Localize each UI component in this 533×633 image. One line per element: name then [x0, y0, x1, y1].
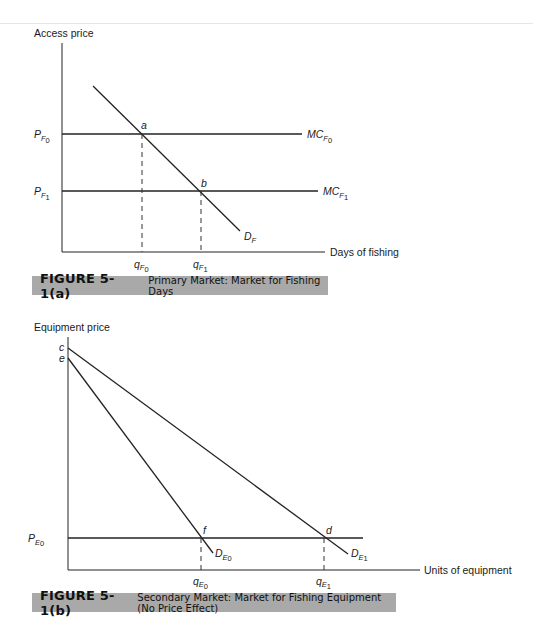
figure-b-title: Secondary Market: Market for Fishing Equ…: [137, 592, 396, 614]
figure-a-caption: FIGURE 5-1(a) Primary Market: Market for…: [32, 276, 328, 295]
figure-a-title: Primary Market: Market for Fishing Days: [148, 275, 328, 297]
y-axis-label-b: Equipment price: [34, 321, 110, 333]
y-axis-label-a: Access price: [34, 27, 94, 39]
mc-f1-label: MCF1: [323, 185, 348, 202]
panel-b-chart: Equipment price Units of equipment c e f…: [28, 321, 512, 591]
demand-f-line: [93, 86, 240, 231]
price-pf1-label: PF1: [34, 185, 50, 202]
price-pe0-label: PE0: [28, 532, 44, 548]
q-f0-tick: qF0: [134, 258, 149, 274]
point-d-label: d: [326, 524, 333, 536]
demand-e1-label: DE1: [351, 547, 368, 563]
q-e0-tick: qE0: [193, 575, 208, 591]
demand-e1-line: [68, 348, 348, 554]
figure-b-caption: FIGURE 5-1(b) Secondary Market: Market f…: [32, 593, 396, 612]
x-axis-label-a: Days of fishing: [330, 246, 399, 258]
panel-a-chart: Access price Days of fishing a b PF0 PF1…: [34, 27, 399, 274]
point-b-label: b: [201, 177, 207, 189]
q-e1-tick: qE1: [316, 575, 331, 591]
figure-b-number: FIGURE 5-1(b): [40, 588, 123, 618]
point-a-label: a: [141, 119, 147, 131]
figure-a-number: FIGURE 5-1(a): [40, 271, 134, 301]
demand-e0-line: [68, 358, 213, 553]
demand-f-label: DF: [244, 230, 257, 245]
mc-f0-label: MCF0: [307, 128, 332, 145]
x-axis-label-b: Units of equipment: [424, 564, 512, 576]
q-f1-tick: qF1: [193, 258, 208, 274]
price-pf0-label: PF0: [34, 128, 50, 145]
figure-canvas: Access price Days of fishing a b PF0 PF1…: [0, 0, 533, 633]
intercept-e-label: e: [59, 352, 65, 364]
point-f-label: f: [203, 524, 207, 536]
demand-e0-label: DE0: [215, 547, 232, 563]
